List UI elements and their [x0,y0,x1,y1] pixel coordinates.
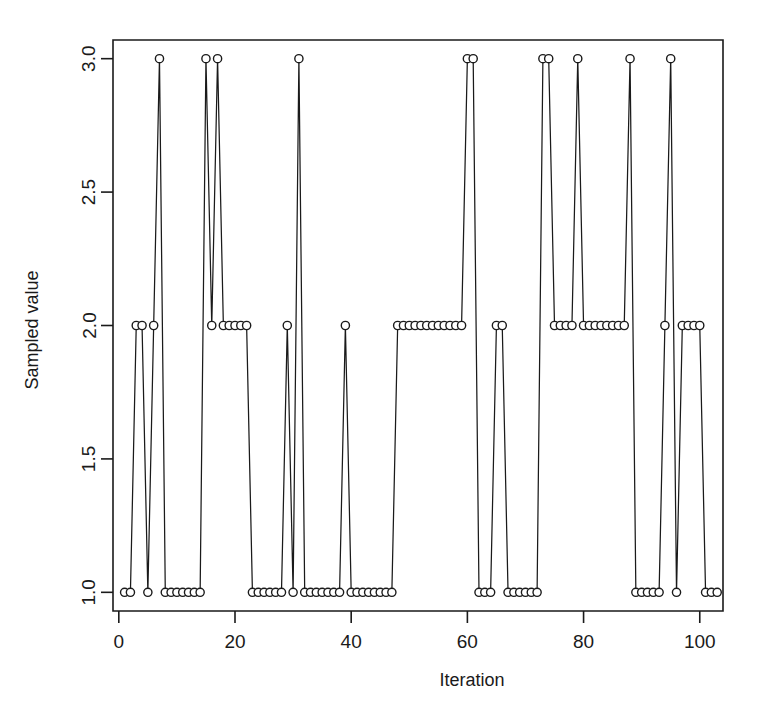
data-point-marker [196,588,204,596]
data-point-marker [289,588,297,596]
data-point-marker [574,55,582,63]
data-point-marker [661,321,669,329]
data-point-marker [533,588,541,596]
y-tick-label: 3.0 [79,45,100,71]
data-point-marker [388,588,396,596]
data-point-marker [208,321,216,329]
y-tick-label: 2.0 [79,312,100,338]
data-point-marker [277,588,285,596]
y-tick-label: 2.5 [79,179,100,205]
x-tick-label: 60 [457,631,478,652]
data-point-marker [498,321,506,329]
data-point-marker [155,55,163,63]
data-point-marker [138,321,146,329]
data-point-marker [335,588,343,596]
data-point-marker [150,321,158,329]
data-point-marker [545,55,553,63]
chart-figure: 020406080100 1.01.52.02.53.0 Iteration S… [0,0,761,723]
data-point-marker [672,588,680,596]
data-point-marker [696,321,704,329]
data-point-marker [568,321,576,329]
x-axis-title: Iteration [439,670,504,690]
trace-plot-svg: 020406080100 1.01.52.02.53.0 Iteration S… [0,0,761,723]
data-point-marker [341,321,349,329]
data-point-marker [626,55,634,63]
data-point-marker [620,321,628,329]
figure-background [0,0,761,723]
y-tick-label: 1.5 [79,446,100,472]
x-tick-label: 0 [114,631,125,652]
y-tick-label: 1.0 [79,579,100,605]
x-tick-label: 40 [341,631,362,652]
data-point-marker [655,588,663,596]
data-point-marker [213,55,221,63]
data-point-marker [283,321,291,329]
data-point-marker [202,55,210,63]
data-point-marker [487,588,495,596]
data-point-marker [469,55,477,63]
data-point-marker [667,55,675,63]
x-tick-label: 80 [573,631,594,652]
data-point-marker [144,588,152,596]
y-axis-title: Sampled value [22,270,42,389]
data-point-marker [243,321,251,329]
x-tick-label: 100 [684,631,716,652]
data-point-marker [713,588,721,596]
data-point-marker [295,55,303,63]
x-tick-label: 20 [224,631,245,652]
data-point-marker [457,321,465,329]
data-point-marker [126,588,134,596]
